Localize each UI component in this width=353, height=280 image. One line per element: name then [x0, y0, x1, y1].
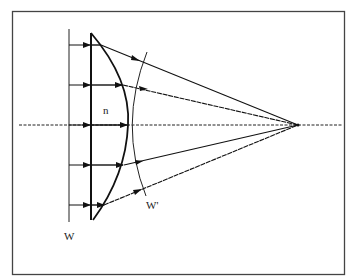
focal-point — [297, 124, 300, 127]
frame-border — [13, 12, 345, 275]
rays-in-lens — [91, 45, 127, 205]
incident-rays — [69, 45, 90, 205]
lens-curved-surface — [91, 33, 128, 220]
label-refractive-index: n — [103, 104, 109, 116]
lens-diagram: W n W' — [0, 0, 353, 280]
emergent-wavefront-curve — [132, 52, 147, 196]
label-incident-wavefront: W — [64, 230, 75, 242]
label-emergent-wavefront: W' — [146, 199, 158, 211]
